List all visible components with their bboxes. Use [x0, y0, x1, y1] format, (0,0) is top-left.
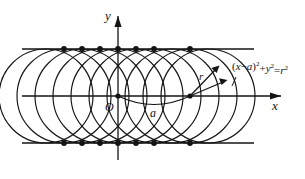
figure-background [0, 0, 305, 179]
tangency-dot-lower-4 [115, 140, 121, 146]
spacing-label: a [150, 106, 156, 120]
y-axis-label: y [103, 8, 111, 23]
tangency-dot-lower-6 [151, 140, 157, 146]
tangency-dot-upper-1 [61, 46, 67, 52]
tangency-dot-upper-4 [115, 46, 121, 52]
x-axis-label: x [271, 98, 278, 113]
figure-container: y x O r a (x−a)2+y2=r2 [0, 0, 305, 179]
origin-label: O [105, 100, 114, 114]
tangency-dot-lower-5 [133, 140, 139, 146]
tangency-dot-upper-6 [151, 46, 157, 52]
radius-label: r [199, 70, 204, 82]
tangency-dot-lower-7 [187, 140, 193, 146]
tangency-dot-lower-2 [79, 140, 85, 146]
tangency-dot-upper-2 [79, 46, 85, 52]
eq-sup-two-c: 2 [285, 64, 289, 72]
tangency-dot-upper-3 [97, 46, 103, 52]
circles-family-diagram: y x O r a (x−a)2+y2=r2 [0, 0, 305, 179]
tangency-dot-lower-1 [61, 140, 67, 146]
tangency-dot-upper-5 [133, 46, 139, 52]
tangency-dot-lower-3 [97, 140, 103, 146]
tangency-dot-upper-7 [187, 46, 193, 52]
